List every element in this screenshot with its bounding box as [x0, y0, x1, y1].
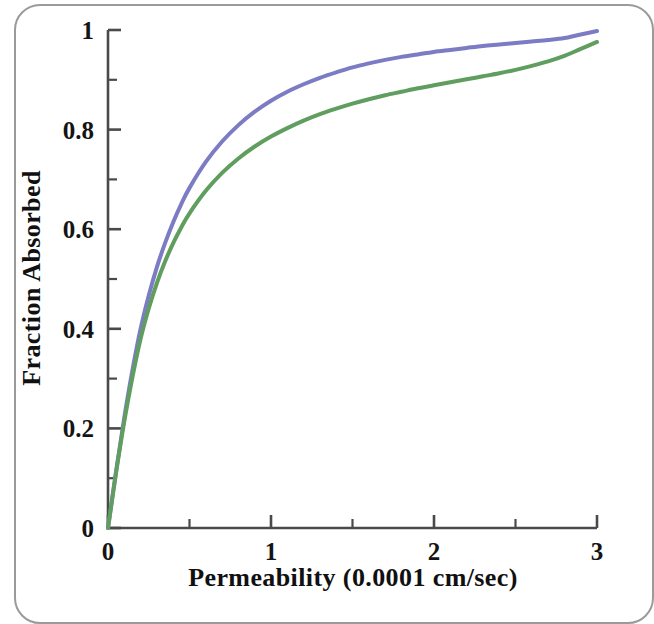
- x-axis-title: Permeability (0.0001 cm/sec): [188, 563, 518, 592]
- x-axis-tick-label: 3: [591, 538, 604, 565]
- chart-tick-labels: 012300.20.40.60.81: [63, 17, 604, 565]
- y-axis-tick-label: 1: [82, 17, 95, 44]
- x-axis-tick-label: 0: [102, 538, 115, 565]
- y-axis-tick-label: 0.4: [63, 316, 95, 343]
- y-axis-tick-label: 0.8: [63, 117, 94, 144]
- x-axis-tick-label: 1: [265, 538, 278, 565]
- y-axis-title: Fraction Absorbed: [17, 170, 46, 386]
- x-axis-tick-label: 2: [428, 538, 441, 565]
- chart-line-lower-curve: [108, 42, 597, 528]
- chart-series-group: [108, 31, 597, 528]
- y-axis-tick-label: 0: [82, 515, 95, 542]
- y-axis-tick-label: 0.6: [63, 216, 94, 243]
- y-axis-tick-label: 0.2: [63, 415, 94, 442]
